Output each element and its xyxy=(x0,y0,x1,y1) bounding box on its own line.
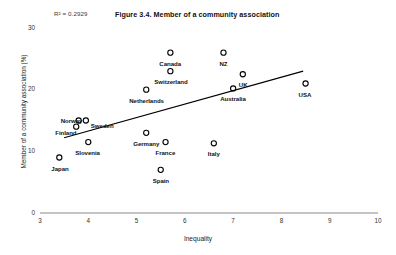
data-point-italy[interactable] xyxy=(211,141,216,146)
data-point-label-nz: NZ xyxy=(219,61,227,67)
data-point-usa[interactable] xyxy=(303,81,308,86)
data-point-label-japan: Japan xyxy=(51,166,68,172)
data-point-label-finland: Finland xyxy=(55,130,76,136)
figure-container: R² = 0.2929 Figure 3.4. Member of a comm… xyxy=(0,0,396,255)
data-point-label-canada: Canada xyxy=(159,61,181,67)
data-point-nz[interactable] xyxy=(221,50,226,55)
data-point-label-uk: UK xyxy=(239,82,248,88)
data-point-label-italy: Italy xyxy=(208,151,220,157)
data-point-label-usa: USA xyxy=(299,92,312,98)
data-point-canada[interactable] xyxy=(168,50,173,55)
data-point-label-australia: Australia xyxy=(220,96,246,102)
data-point-spain[interactable] xyxy=(158,167,163,172)
scatter-plot-canvas xyxy=(0,0,396,255)
data-point-label-spain: Spain xyxy=(153,178,169,184)
data-point-label-slovenia: Slovenia xyxy=(75,150,100,156)
data-point-label-norway: Norway xyxy=(61,118,83,124)
data-point-switzerland[interactable] xyxy=(168,69,173,74)
data-point-label-sweden: Sweden xyxy=(91,123,114,129)
data-point-germany[interactable] xyxy=(144,130,149,135)
data-point-france[interactable] xyxy=(163,139,168,144)
data-point-uk[interactable] xyxy=(240,72,245,77)
data-point-label-germany: Germany xyxy=(133,141,159,147)
data-point-netherlands[interactable] xyxy=(144,87,149,92)
data-point-slovenia[interactable] xyxy=(86,139,91,144)
data-point-sweden[interactable] xyxy=(83,118,88,123)
data-point-label-switzerland: Switzerland xyxy=(154,79,187,85)
data-point-japan[interactable] xyxy=(57,155,62,160)
data-point-label-france: France xyxy=(156,150,176,156)
data-point-label-netherlands: Netherlands xyxy=(129,98,164,104)
